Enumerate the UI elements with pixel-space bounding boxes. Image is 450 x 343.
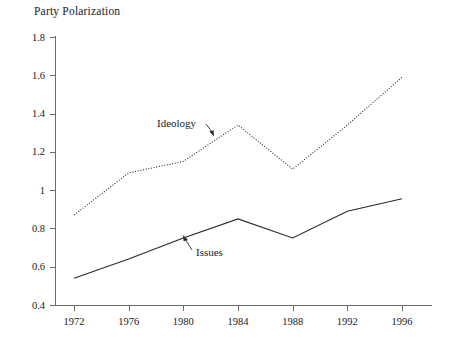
series-line-issues (74, 199, 402, 278)
y-tick-label: 1 (40, 185, 45, 196)
series-label-ideology: Ideology (157, 117, 197, 129)
y-tick-label: 0.6 (32, 261, 45, 272)
issues-arrow-head (183, 235, 188, 241)
x-tick-label: 1976 (118, 316, 139, 327)
y-tick-label: 1.6 (32, 70, 45, 81)
x-tick-label: 1972 (64, 316, 85, 327)
chart-figure: Party Polarization 0.40.60.811.21.41.61.… (0, 0, 450, 343)
y-tick-label: 1.8 (32, 32, 45, 43)
x-tick-label: 1980 (173, 316, 194, 327)
series-line-ideology (74, 77, 402, 215)
data-series-group (74, 77, 402, 278)
ideology-arrow-head (209, 130, 214, 136)
line-chart-plot: 0.40.60.811.21.41.61.8 19721976198019841… (0, 0, 450, 343)
x-tick-label: 1988 (282, 316, 303, 327)
x-tick-label: 1992 (337, 316, 358, 327)
y-tick-label: 0.8 (32, 223, 45, 234)
annotation-ideology: Ideology (157, 117, 214, 137)
x-axis-ticks: 1972197619801984198819921996 (64, 306, 413, 328)
x-tick-label: 1984 (228, 316, 250, 327)
x-tick-label: 1996 (392, 316, 413, 327)
issues-leader-line (185, 239, 192, 250)
y-tick-label: 1.2 (32, 146, 45, 157)
y-tick-label: 0.4 (32, 300, 46, 311)
y-tick-label: 1.4 (32, 108, 46, 119)
y-axis-ticks: 0.40.60.811.21.41.61.8 (32, 32, 56, 311)
series-label-issues: Issues (196, 246, 223, 258)
annotation-issues: Issues (183, 235, 223, 258)
